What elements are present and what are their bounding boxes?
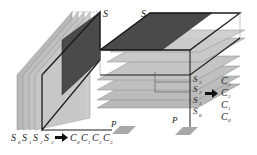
right-figure: S P S 3 S 2 S 1 S 0 C 3 C 2 C 1 C 0	[97, 8, 245, 135]
right-top-label: S	[141, 8, 146, 19]
svg-text:C: C	[81, 132, 88, 143]
svg-text:S: S	[22, 132, 27, 143]
svg-text:1: 1	[228, 106, 231, 111]
left-top-label: S	[103, 8, 108, 19]
svg-text:1: 1	[199, 101, 202, 106]
svg-text:S: S	[193, 95, 198, 105]
svg-text:S: S	[33, 132, 38, 143]
svg-text:C: C	[92, 132, 99, 143]
left-arrow-icon	[55, 133, 68, 142]
right-p-plate	[175, 127, 198, 135]
svg-text:1: 1	[29, 140, 32, 145]
svg-text:3: 3	[110, 140, 113, 145]
svg-text:S: S	[193, 84, 198, 94]
svg-text:0: 0	[77, 140, 80, 145]
svg-text:0: 0	[228, 118, 231, 123]
svg-text:C: C	[221, 87, 228, 98]
svg-text:S: S	[11, 132, 16, 143]
svg-text:C: C	[221, 111, 228, 122]
svg-text:C: C	[103, 132, 110, 143]
svg-text:2: 2	[228, 94, 231, 99]
svg-text:2: 2	[40, 140, 43, 145]
diagram-canvas: S P S 0 S 1 S 2 S 3 C 0 C 1 C 2 C 3	[0, 0, 257, 155]
svg-text:C: C	[70, 132, 77, 143]
svg-text:2: 2	[99, 140, 102, 145]
svg-text:3: 3	[51, 140, 54, 145]
svg-text:C: C	[221, 75, 228, 86]
svg-text:S: S	[193, 106, 198, 116]
svg-text:0: 0	[18, 140, 21, 145]
left-result-labels: C 0 C 1 C 2 C 3	[70, 132, 113, 145]
svg-text:1: 1	[88, 140, 91, 145]
svg-text:S: S	[193, 74, 198, 84]
svg-text:0: 0	[199, 113, 202, 118]
svg-text:S: S	[44, 132, 49, 143]
right-point-label: P	[171, 115, 178, 125]
left-point-label: P	[110, 119, 117, 129]
svg-text:C: C	[221, 99, 228, 110]
right-result-labels: C 3 C 2 C 1 C 0	[221, 75, 231, 123]
left-slice-labels: S 0 S 1 S 2 S 3	[11, 132, 54, 145]
